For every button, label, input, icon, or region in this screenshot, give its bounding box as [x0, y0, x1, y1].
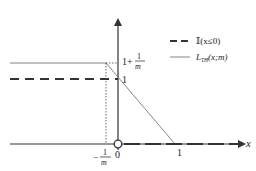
legend-indicator-label: 𝕀(x≤0): [196, 36, 220, 46]
loss-function-diagram: x 0 1 − 1 m 1 1+ 1 m 𝕀(x≤0) LTH(x;m): [0, 0, 256, 171]
x-tick-neg-sign: −: [93, 152, 98, 162]
x-tick-one: 1: [177, 147, 182, 158]
x-tick-neg-num: 1: [103, 148, 107, 157]
x-tick-neg-den: m: [101, 158, 107, 167]
origin-label: 0: [115, 149, 120, 160]
y-label-top-num: 1: [137, 52, 141, 61]
y-label-top-prefix: 1+: [122, 56, 133, 67]
x-axis-label: x: [245, 137, 251, 149]
legend-hinge-label: LTH(x;m): [195, 52, 228, 63]
y-label-top-den: m: [135, 62, 141, 71]
y-label-one: 1: [122, 74, 127, 85]
legend: 𝕀(x≤0) LTH(x;m): [170, 36, 228, 63]
hinge-loss-slope: [106, 63, 175, 144]
origin-open-circle: [114, 140, 122, 148]
